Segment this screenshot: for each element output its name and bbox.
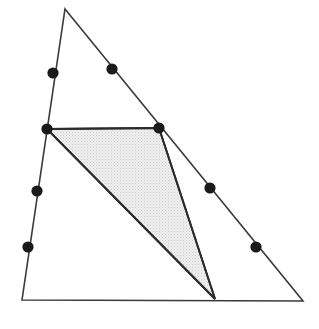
hypotenuse-point-1 <box>106 63 117 74</box>
hypotenuse-point-2 <box>153 122 164 133</box>
hypotenuse-point-3 <box>204 182 215 193</box>
left-edge-point-4 <box>22 241 33 252</box>
left-edge-point-2 <box>41 123 52 134</box>
segment-top <box>47 128 159 129</box>
left-edge-point-3 <box>31 185 42 196</box>
geometry-diagram <box>0 0 319 329</box>
left-edge-point-1 <box>47 67 58 78</box>
hypotenuse-point-4 <box>250 241 261 252</box>
figure-container <box>0 0 319 329</box>
